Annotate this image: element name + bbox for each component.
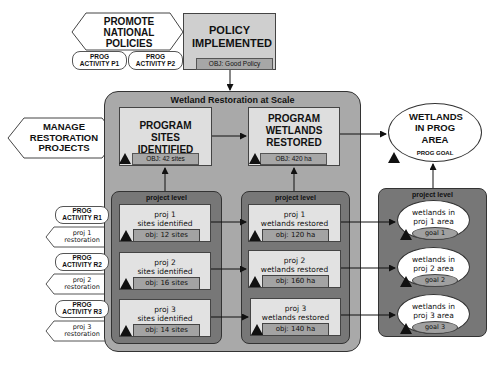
proj-2-sites-identified[interactable]: proj 2sites identified obj: 16 sites — [119, 252, 211, 290]
proj-1-sites-identified[interactable]: proj 1sites identified obj: 12 sites — [119, 204, 211, 242]
proj-name: proj 3sites identified — [120, 305, 210, 323]
proj-objective: obj: 16 sites — [133, 277, 200, 290]
indicator-triangle-icon — [249, 153, 261, 164]
indicator-triangle-icon — [251, 324, 263, 335]
prog-activity-r3[interactable]: PROG ACTIVITY R3 — [55, 300, 109, 318]
proj-name: proj 1wetlands restored — [249, 210, 340, 228]
prog-activity-r2[interactable]: PROG ACTIVITY R2 — [55, 253, 109, 271]
indicator-triangle-icon — [249, 276, 261, 287]
proj-objective: obj: 12 sites — [133, 229, 200, 242]
proj-objective: obj: 160 ha — [262, 275, 329, 288]
wetlands-in-prog-area-goal[interactable]: WETLANDS IN PROG AREA PROG GOAL — [388, 103, 482, 162]
indicator-triangle-icon — [249, 230, 261, 241]
proj-objective: obj: 14 sites — [133, 324, 200, 337]
program-sites-identified-box[interactable]: PROGRAM SITES IDENTIFIED OBJ: 42 sites — [119, 107, 212, 166]
proj-name: proj 2wetlands restored — [249, 256, 340, 274]
indicator-triangle-icon — [400, 229, 412, 240]
container-title: Wetland Restoration at Scale — [105, 95, 360, 105]
program-sites-title: PROGRAM SITES IDENTIFIED — [120, 120, 211, 156]
indicator-triangle-icon — [120, 278, 132, 289]
proj-goal-pill: goal 1 — [412, 227, 458, 240]
proj-objective: obj: 120 ha — [262, 229, 329, 242]
proj-3-sites-identified[interactable]: proj 3sites identified obj: 14 sites — [119, 299, 211, 337]
proj-1-restoration[interactable]: proj 1 restoration — [58, 228, 106, 246]
indicator-triangle-icon — [120, 230, 132, 241]
proj-2-restoration[interactable]: proj 2 restoration — [58, 275, 106, 293]
prog-activity-r1[interactable]: PROG ACTIVITY R1 — [55, 206, 109, 224]
proj-objective: obj: 140 ha — [262, 323, 329, 336]
policy-objective: OBJ: Good Policy — [196, 58, 273, 70]
program-wetlands-restored-box[interactable]: PROGRAM WETLANDS RESTORED OBJ: 420 ha — [248, 107, 340, 166]
goal-subtitle: PROG GOAL — [389, 150, 481, 156]
proj-goal-text: wetlands in proj 1 area — [398, 208, 469, 226]
policy-implemented-box[interactable]: POLICY IMPLEMENTED OBJ: Good Policy — [183, 13, 276, 70]
proj-goal-pill: goal 2 — [412, 274, 458, 287]
proj-3-restoration[interactable]: proj 3 restoration — [58, 322, 106, 340]
proj-goal-text: wetlands in proj 2 area — [398, 255, 469, 273]
proj-3-wetlands-restored[interactable]: proj 3wetlands restored obj: 140 ha — [250, 298, 341, 336]
indicator-triangle-icon — [388, 152, 400, 163]
project-level-label: project level — [242, 194, 349, 201]
promote-national-policies-label: PROMOTE NATIONAL POLICIES — [100, 14, 158, 50]
proj-name: proj 3wetlands restored — [251, 304, 340, 322]
prog-activity-p2[interactable]: PROG ACTIVITY P2 — [128, 51, 183, 70]
policy-implemented-title: POLICY IMPLEMENTED — [184, 24, 275, 50]
indicator-triangle-icon — [400, 276, 412, 287]
indicator-triangle-icon — [400, 323, 412, 334]
program-wetlands-title: PROGRAM WETLANDS RESTORED — [249, 113, 339, 149]
manage-restoration-projects-label: MANAGE RESTORATION PROJECTS — [28, 120, 100, 156]
goal-title: WETLANDS IN PROG AREA — [389, 111, 481, 145]
program-sites-objective: OBJ: 42 sites — [132, 153, 199, 165]
proj-2-wetlands-restored[interactable]: proj 2wetlands restored obj: 160 ha — [248, 250, 341, 288]
proj-1-wetlands-restored[interactable]: proj 1wetlands restored obj: 120 ha — [248, 204, 341, 242]
proj-goal-pill: goal 3 — [412, 321, 458, 334]
proj-goal-text: wetlands in proj 3 area — [398, 302, 469, 320]
project-level-label: project level — [112, 194, 221, 201]
prog-activity-p1[interactable]: PROG ACTIVITY P1 — [72, 51, 127, 70]
indicator-triangle-icon — [120, 325, 132, 336]
program-wetlands-objective: OBJ: 420 ha — [260, 153, 327, 165]
proj-name: proj 2sites identified — [120, 258, 210, 276]
proj-name: proj 1sites identified — [120, 210, 210, 228]
project-level-label: project level — [379, 191, 486, 198]
indicator-triangle-icon — [119, 153, 131, 164]
